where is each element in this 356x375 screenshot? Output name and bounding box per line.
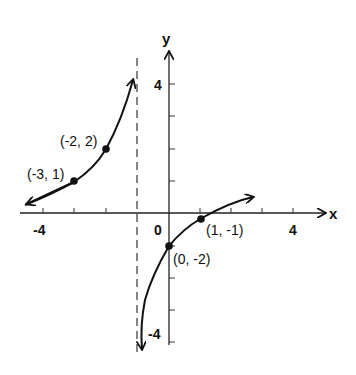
point-label-neg2-2: (-2, 2): [60, 133, 97, 149]
point-label-0-neg2: (0, -2): [173, 251, 210, 267]
x-tick-label-neg4: -4: [33, 222, 46, 238]
y-tick-label-4: 4: [154, 77, 162, 93]
y-axis-label: y: [162, 30, 171, 47]
point-label-1-neg1: (1, -1): [206, 222, 243, 238]
point-neg3-1: [70, 177, 78, 185]
graph: x y 0 -4 4 4 -4 (-3, 1) (-2, 2) (0, -2) …: [0, 0, 356, 375]
point-label-neg3-1: (-3, 1): [27, 166, 64, 182]
origin-label: 0: [154, 222, 162, 238]
x-tick-label-4: 4: [289, 222, 297, 238]
point-neg2-2: [102, 145, 110, 153]
point-0-neg2: [165, 242, 173, 250]
x-axis-label: x: [329, 205, 338, 222]
y-tick-label-neg4: -4: [148, 326, 161, 342]
point-1-neg1: [197, 215, 205, 223]
x-ticks: [43, 208, 293, 213]
